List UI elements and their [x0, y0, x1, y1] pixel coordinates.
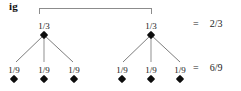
tree-node-level1: 1/3 — [139, 21, 163, 38]
tree-node-label: 1/9 — [2, 65, 26, 75]
tree-node-level1: 1/3 — [32, 21, 56, 38]
tree-node-label: 1/9 — [62, 65, 86, 75]
tree-node-level2: 1/9 — [110, 65, 134, 82]
tree-node-level2: 1/9 — [139, 65, 163, 82]
diamond-marker-icon — [10, 75, 18, 83]
diamond-marker-icon — [118, 75, 126, 83]
tree-node-label: 1/9 — [168, 65, 192, 75]
tree-node-label: 1/9 — [32, 65, 56, 75]
tree-node-label: 1/9 — [110, 65, 134, 75]
equation-value: 6/9 — [210, 62, 223, 73]
diamond-marker-icon — [70, 75, 78, 83]
diamond-marker-icon — [40, 31, 48, 39]
figure-label: ig — [9, 1, 18, 12]
equation-row-ninths: = 6/9 — [193, 62, 222, 73]
equation-value: 2/3 — [210, 18, 223, 29]
equals-sign: = — [193, 18, 199, 29]
span-bracket — [39, 8, 152, 15]
diamond-marker-icon — [176, 75, 184, 83]
diamond-marker-icon — [147, 75, 155, 83]
span-bracket-tick-right — [151, 8, 152, 14]
tree-node-label: 1/3 — [139, 21, 163, 31]
tree-node-level2: 1/9 — [32, 65, 56, 82]
diamond-marker-icon — [147, 31, 155, 39]
tree-node-level2: 1/9 — [62, 65, 86, 82]
fraction-equivalence-figure: ig 1/3 1/3 1/9 1/9 1/9 1/9 — [0, 0, 241, 91]
tree-node-label: 1/3 — [32, 21, 56, 31]
span-bracket-bar — [39, 8, 152, 9]
tree-node-label: 1/9 — [139, 65, 163, 75]
span-bracket-tick-left — [39, 8, 40, 14]
equals-sign: = — [193, 62, 199, 73]
equation-row-thirds: = 2/3 — [193, 18, 222, 29]
tree-node-level2: 1/9 — [168, 65, 192, 82]
diamond-marker-icon — [40, 75, 48, 83]
tree-node-level2: 1/9 — [2, 65, 26, 82]
